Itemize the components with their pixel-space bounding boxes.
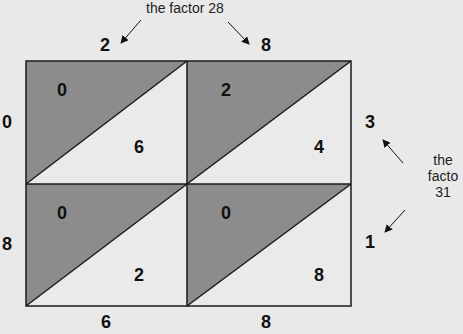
bottom-digit: 8 — [261, 313, 271, 331]
arrow-to-3 — [383, 140, 403, 163]
cell-tens-digit: 0 — [57, 81, 67, 99]
cell-tens-digit: 0 — [57, 204, 67, 222]
cell-ones-digit: 2 — [134, 266, 144, 284]
left-digit: 0 — [2, 113, 12, 131]
cell-ones-digit: 4 — [314, 138, 324, 156]
cell-tens-digit: 2 — [221, 81, 231, 99]
right-digit: 1 — [365, 233, 375, 251]
cell-ones-digit: 6 — [134, 138, 144, 156]
right-factor-annotation: the facto 31 — [423, 152, 463, 200]
top-digit: 8 — [261, 36, 271, 54]
bottom-digit: 6 — [101, 313, 111, 331]
right-annotation-line2: facto — [423, 168, 463, 184]
arrow-to-1 — [385, 210, 405, 232]
right-digit: 3 — [365, 113, 375, 131]
cell-ones-digit: 8 — [314, 266, 324, 284]
arrow-to-8 — [228, 22, 249, 44]
top-digit: 2 — [100, 36, 110, 54]
cell-tens-digit: 0 — [221, 204, 231, 222]
left-digit: 8 — [2, 235, 12, 253]
top-factor-annotation: the factor 28 — [146, 0, 224, 16]
right-annotation-line1: the — [423, 152, 463, 168]
right-annotation-line3: 31 — [423, 184, 463, 200]
arrow-to-2 — [121, 20, 141, 43]
